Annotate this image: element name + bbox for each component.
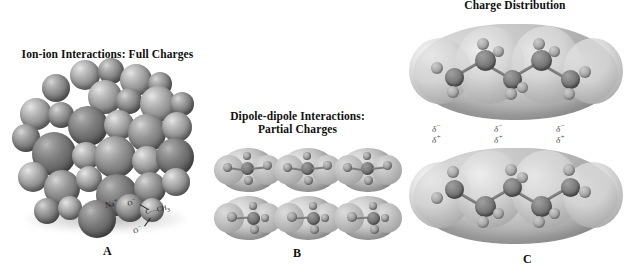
dipole-molecule xyxy=(279,196,337,240)
hydrogen-atom xyxy=(261,214,269,222)
central-atom xyxy=(307,212,320,225)
hydrogen-atom xyxy=(505,88,517,100)
hydrocarbon-molecule-bottom xyxy=(413,148,618,244)
molecule-core xyxy=(219,148,277,192)
hydrogen-atom xyxy=(364,176,373,185)
panel-a: Ion-ion Interactions: Full Charges xyxy=(0,0,215,277)
panel-c-title: Charge Distribution xyxy=(395,0,635,11)
hydrogen-atom xyxy=(310,225,319,234)
substituent-atom xyxy=(263,161,272,170)
hydrogen-atom xyxy=(549,46,560,57)
ion-sphere xyxy=(34,198,60,224)
hydrogen-atom xyxy=(321,214,329,222)
hydrogen-atom xyxy=(381,214,389,222)
substituent-atom xyxy=(287,212,297,222)
substituent-atom xyxy=(227,212,237,222)
central-atom xyxy=(247,212,260,225)
carbon-atom xyxy=(445,68,464,87)
hydrogen-atom xyxy=(304,176,313,185)
hydrogen-atom xyxy=(549,208,560,219)
hydrogen-atom xyxy=(505,164,517,176)
panel-c: Charge Distribution xyxy=(395,0,635,277)
delta-positive-label: δ+ xyxy=(494,133,503,145)
hydrogen-atom xyxy=(250,225,259,234)
hydrogen-atom xyxy=(303,152,311,160)
hydrogen-atom xyxy=(431,192,443,204)
panel-c-letter: C xyxy=(523,252,532,267)
hydrogen-atom xyxy=(431,62,443,74)
panel-b-title-line1: Dipole-dipole Interactions: xyxy=(205,110,390,122)
molecule-core xyxy=(279,196,337,240)
hydrogen-atom xyxy=(309,202,317,210)
panel-b: Dipole-dipole Interactions: Partial Char… xyxy=(205,0,390,277)
substituent-atom xyxy=(383,161,392,170)
sodium-ion-label: Na+ xyxy=(104,197,118,210)
delta-positive-label: δ+ xyxy=(432,133,441,145)
dipole-molecule xyxy=(219,148,277,192)
hydrogen-atom xyxy=(517,172,528,183)
hydrogen-atom xyxy=(243,152,251,160)
molecule-core xyxy=(279,148,337,192)
hydrogen-atom xyxy=(370,225,379,234)
panel-b-title-line2: Partial Charges xyxy=(205,123,390,135)
molecule-core xyxy=(339,196,397,240)
panel-a-letter: A xyxy=(103,244,112,259)
substituent-atom xyxy=(223,163,232,172)
hydrogen-atom xyxy=(363,152,371,160)
dipole-molecule xyxy=(339,196,397,240)
hydrogen-atom xyxy=(477,38,489,50)
carbon-chain xyxy=(413,148,618,244)
hydrogen-atom xyxy=(493,46,504,57)
carbon-atom xyxy=(561,178,580,197)
substituent-atom xyxy=(347,212,357,222)
hydrogen-atom xyxy=(533,38,545,50)
ion-sphere xyxy=(42,74,70,102)
bond-lower xyxy=(144,218,151,227)
molecule-core xyxy=(339,148,397,192)
hydrogen-atom xyxy=(244,176,253,185)
carbon-atom xyxy=(561,70,580,89)
dipole-molecule xyxy=(279,148,337,192)
hydrocarbon-molecule-top xyxy=(413,24,618,120)
carbon-atom xyxy=(445,180,464,199)
hydrogen-atom xyxy=(369,202,377,210)
carbon-methyl: C—CH3 xyxy=(145,203,171,217)
hydrogen-atom xyxy=(517,82,528,93)
figure-root: Ion-ion Interactions: Full Charges xyxy=(0,0,635,277)
molecule-core xyxy=(219,196,277,240)
substituent-atom xyxy=(343,163,352,172)
panel-b-letter: B xyxy=(293,246,301,261)
na-charge: + xyxy=(113,197,117,203)
hydrogen-atom xyxy=(563,164,575,176)
hydrogen-atom xyxy=(533,216,545,228)
dipole-molecule xyxy=(339,148,397,192)
central-atom xyxy=(367,212,380,225)
hydrogen-atom xyxy=(447,166,459,178)
hydrogen-atom xyxy=(447,86,459,98)
substituent-atom xyxy=(283,163,292,172)
hydrogen-atom xyxy=(477,216,489,228)
hydrogen-atom xyxy=(579,186,591,198)
dipole-molecule xyxy=(219,196,277,240)
delta-positive-label: δ+ xyxy=(556,133,565,145)
oxygen-top: O− xyxy=(126,196,136,208)
carbon-chain xyxy=(413,24,618,120)
hydrogen-atom xyxy=(249,202,257,210)
oxygen-bottom: O− xyxy=(132,224,142,236)
hydrogen-atom xyxy=(563,88,575,100)
substituent-atom xyxy=(323,161,332,170)
hydrogen-atom xyxy=(493,208,504,219)
hydrogen-atom xyxy=(579,66,591,78)
